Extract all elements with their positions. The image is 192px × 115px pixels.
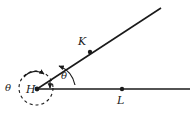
point-dot-l [120,87,124,91]
point-dot-k [88,50,92,54]
interior-angle-label: θ [61,71,67,81]
ray-hk-line [37,8,161,89]
geometry-figure: H K L θ θ [0,0,192,115]
point-label-l: L [117,95,124,106]
reflex-angle-label: θ [5,83,11,93]
reflex-sweep-arrow [24,71,44,77]
geometry-canvas [0,0,192,115]
point-label-k: K [78,36,86,47]
point-label-h: H [26,84,36,95]
